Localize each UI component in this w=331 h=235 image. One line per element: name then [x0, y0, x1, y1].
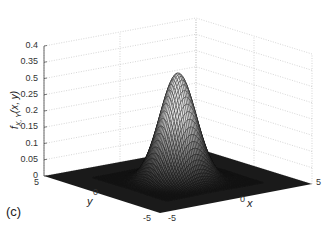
panel-label: (c) [6, 205, 21, 218]
y-axis-label: y [87, 196, 93, 207]
z-tick: 0 [2, 171, 38, 180]
x-tick-neg5: -5 [168, 214, 176, 223]
z-label-f: f [9, 126, 20, 129]
y-tick-0: 0 [93, 188, 98, 197]
x-tick-5: 5 [316, 178, 321, 187]
z-tick: 0.35 [2, 57, 38, 66]
z-label-sub: X, Y [15, 113, 22, 126]
z-tick: 0.05 [2, 155, 38, 164]
surface-mesh [92, 73, 264, 201]
z-label-args: (x, y) [9, 91, 20, 113]
axis-lines [44, 46, 47, 177]
z-axis-label: fX, Y(x, y) [10, 80, 22, 140]
x-axis-label: x [247, 198, 253, 209]
x-tick-0: 0 [240, 195, 245, 204]
y-tick-neg5: -5 [143, 214, 151, 223]
y-tick-5: 5 [34, 178, 39, 187]
z-tick: 0.4 [2, 41, 38, 50]
surface-plot [0, 0, 331, 235]
